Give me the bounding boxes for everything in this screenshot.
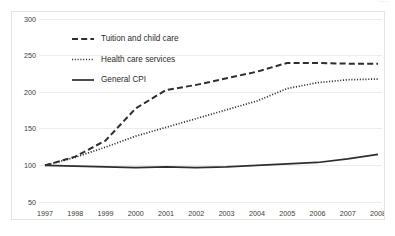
- chart-legend: Tuition and child careHealth care servic…: [72, 34, 179, 84]
- x-axis-tick-label: 2005: [279, 209, 295, 218]
- x-axis-tick-label: 2000: [128, 209, 144, 218]
- y-axis-tick-label: 50: [28, 198, 36, 207]
- line-chart: 50100150200250300 1997199819992000200120…: [12, 12, 384, 219]
- x-axis-tick-label: 1999: [98, 209, 114, 218]
- x-axis-tick-labels: 1997199819992000200120022003200420052006…: [37, 209, 384, 218]
- series-group: [45, 63, 378, 168]
- x-axis-tick-label: 2004: [249, 209, 265, 218]
- y-axis-tick-label: 200: [24, 88, 36, 97]
- x-axis-tick-label: 2007: [340, 209, 356, 218]
- y-axis-tick-label: 100: [24, 161, 36, 170]
- page-corner-artifact: ---: [379, 0, 389, 4]
- y-axis-tick-labels: 50100150200250300: [24, 15, 36, 207]
- legend-label: General CPI: [101, 75, 146, 84]
- legend-label: Tuition and child care: [101, 34, 179, 43]
- chart-figure: --- 50100150200250300 199719981999200020…: [0, 0, 395, 236]
- x-axis-tick-label: 1997: [37, 209, 53, 218]
- x-axis-tick-label: 2003: [219, 209, 235, 218]
- x-axis-tick-label: 2008: [370, 209, 384, 218]
- x-axis-tick-label: 2001: [158, 209, 174, 218]
- y-axis-tick-label: 150: [24, 124, 36, 133]
- x-axis-tick-label: 2006: [309, 209, 325, 218]
- y-axis-tick-label: 300: [24, 15, 36, 24]
- y-axis-tick-label: 250: [24, 51, 36, 60]
- x-axis-tick-label: 2002: [188, 209, 204, 218]
- legend-label: Health care services: [101, 55, 175, 64]
- chart-plot-frame: 50100150200250300 1997199819992000200120…: [11, 11, 385, 220]
- x-axis-tick-label: 1998: [67, 209, 83, 218]
- gridlines-group: [39, 19, 382, 202]
